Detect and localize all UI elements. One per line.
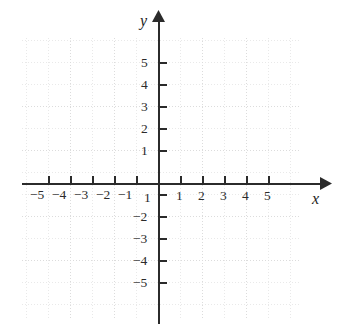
y-tick-label: 1 <box>141 144 148 158</box>
y-tick-label: 1 <box>144 191 151 205</box>
x-tick-label: −2 <box>96 188 110 202</box>
x-tick-label: −4 <box>52 188 66 202</box>
x-tick-label: 3 <box>220 189 227 203</box>
y-tick-label: −2 <box>133 210 147 224</box>
y-tick-label: 4 <box>141 78 148 92</box>
y-tick-label: −5 <box>133 276 147 290</box>
x-tick-label: 1 <box>176 189 183 203</box>
y-axis-arrowhead <box>152 10 165 22</box>
y-tick-label: 5 <box>141 56 148 70</box>
y-tick-label: −4 <box>133 254 147 268</box>
grid-lines-major <box>22 38 300 318</box>
x-axis-arrowhead <box>320 177 332 190</box>
y-tick-label: −3 <box>133 232 147 246</box>
y-axis-label: y <box>140 13 147 29</box>
coordinate-plane-figure: −5 −4 −3 −2 −1 1 2 3 4 5 5 4 3 2 1 1 −2 … <box>0 0 338 332</box>
x-tick-label: −5 <box>30 188 44 202</box>
grid-lines <box>22 38 300 318</box>
y-tick-label: 2 <box>141 122 148 136</box>
x-axis-label: x <box>312 191 319 207</box>
x-tick-label: 2 <box>198 189 205 203</box>
x-tick-label: −1 <box>118 188 132 202</box>
y-tick-label: 3 <box>141 100 148 114</box>
x-tick-label: 4 <box>242 189 249 203</box>
x-tick-label: −3 <box>74 188 88 202</box>
coordinate-plane-canvas <box>0 0 338 332</box>
x-tick-label: 5 <box>264 189 271 203</box>
